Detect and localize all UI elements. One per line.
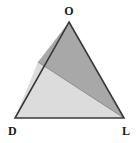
- triangle-diagram: [0, 0, 138, 143]
- vertex-label-d: D: [8, 125, 17, 137]
- vertex-label-l: L: [122, 125, 130, 137]
- vertex-label-o: O: [0, 5, 138, 17]
- figure-canvas: O D L: [0, 0, 138, 143]
